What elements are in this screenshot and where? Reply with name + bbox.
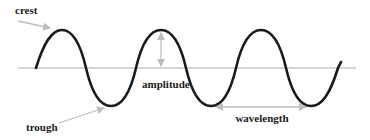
- crest-label: crest: [15, 4, 38, 16]
- wavelength-label: wavelength: [235, 112, 288, 124]
- wave-diagram: crest amplitude trough wavelength: [0, 0, 370, 140]
- amplitude-label: amplitude: [142, 78, 190, 90]
- crest-arrow: [18, 21, 50, 28]
- crest-annotation: crest: [15, 4, 50, 28]
- wavelength-annotation: wavelength: [216, 107, 306, 124]
- trough-arrow: [59, 108, 104, 123]
- trough-label: trough: [26, 121, 58, 133]
- amplitude-annotation: amplitude: [142, 33, 190, 90]
- trough-annotation: trough: [26, 108, 104, 133]
